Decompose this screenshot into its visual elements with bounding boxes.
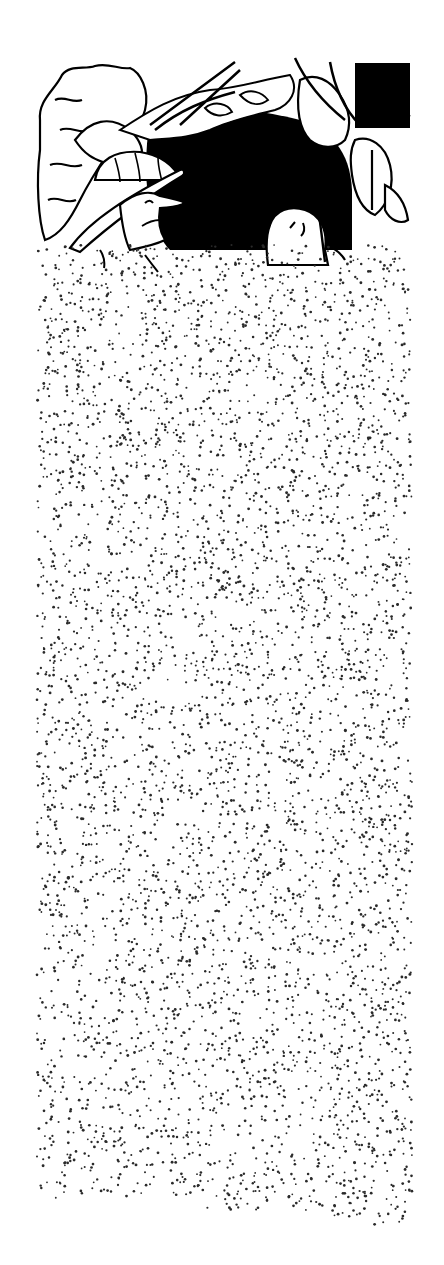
stippled-ground bbox=[36, 244, 414, 1226]
cartoon-illustration bbox=[0, 0, 444, 1265]
